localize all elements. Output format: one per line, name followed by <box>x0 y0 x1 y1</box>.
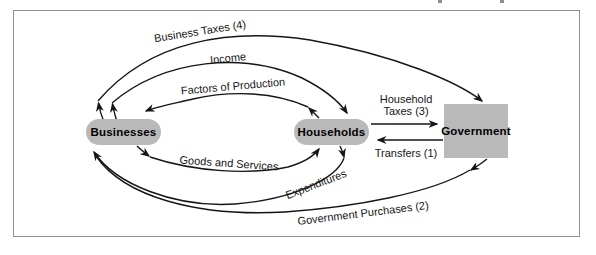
node-households-label: Households <box>298 126 366 138</box>
household-taxes-label-line2: Taxes (3) <box>380 106 433 118</box>
node-households: Households <box>294 119 369 145</box>
household-taxes-label-line1: Household <box>380 94 433 106</box>
node-businesses: Businesses <box>86 119 161 145</box>
node-government: Government <box>444 104 508 158</box>
cropped-text-remnant <box>500 0 504 3</box>
transfers-label: Transfers (1) <box>375 147 438 159</box>
node-government-label: Government <box>441 125 511 137</box>
cropped-text-remnant <box>438 0 442 3</box>
node-businesses-label: Businesses <box>91 126 157 138</box>
household-taxes-label: Household Taxes (3) <box>380 94 433 117</box>
